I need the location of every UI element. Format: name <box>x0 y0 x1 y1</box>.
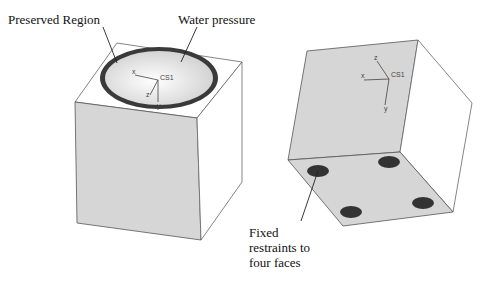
fixed-restraints-label-line1: Fixed <box>249 225 279 240</box>
fixed-restraints-label-line3: four faces <box>249 255 301 270</box>
right-cube: x CS1 z y <box>288 40 472 226</box>
left-axis-y-label: y <box>157 102 161 110</box>
left-axis-z-label: z <box>146 91 150 98</box>
restraint-3 <box>340 206 362 218</box>
right-cube-back-face <box>288 40 418 160</box>
left-axis-x-label: x <box>132 68 136 75</box>
left-cube-front-face <box>75 102 201 240</box>
restraint-2 <box>378 156 400 168</box>
right-axis-x-label: x <box>361 72 365 79</box>
right-axis-y-label: y <box>384 105 388 113</box>
water-pressure-label: Water pressure <box>178 12 255 27</box>
left-cube: x CS1 z y <box>75 27 242 240</box>
water-pressure-surface <box>105 51 213 105</box>
left-axis-origin-label: CS1 <box>160 74 174 81</box>
fixed-restraints-label-line2: restraints to <box>249 240 310 255</box>
restraint-4 <box>412 197 434 209</box>
preserved-region-label: Preserved Region <box>8 12 100 27</box>
right-axis-z-label: z <box>374 54 378 61</box>
diagram-canvas: x CS1 z y x CS1 z y <box>0 0 494 283</box>
right-axis-origin-label: CS1 <box>391 71 405 78</box>
